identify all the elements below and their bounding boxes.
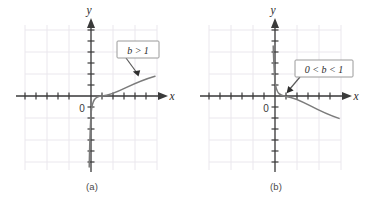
y-axis-label: y (85, 4, 92, 17)
panel-a-caption: (a) (0, 181, 184, 192)
x-axis (16, 92, 168, 100)
x-axis-label: x (168, 90, 175, 102)
panel-a: x y 0 b > 1 (a) (0, 0, 184, 205)
callout-box-a: b > 1 (117, 41, 159, 58)
panel-a-plot: x y 0 b > 1 (0, 0, 184, 182)
callout-box-b: 0 < b < 1 (295, 60, 353, 77)
x-axis (200, 92, 352, 100)
callout-label-a: b > 1 (127, 45, 149, 56)
panel-b-caption: (b) (184, 181, 368, 192)
callout-label-b: 0 < b < 1 (305, 64, 344, 75)
origin-label: 0 (79, 103, 85, 114)
callout-arrow-b (287, 77, 300, 93)
y-axis (271, 18, 279, 172)
log-curve-increasing (89, 76, 155, 167)
origin-label: 0 (263, 103, 269, 114)
log-curve-decreasing (273, 46, 339, 118)
x-axis-label: x (352, 90, 359, 102)
logarithmic-graphs-figure: x y 0 b > 1 (a) (0, 0, 368, 205)
panel-b-plot: x y 0 0 < b < 1 (184, 0, 368, 182)
y-axis-label: y (269, 4, 276, 17)
y-axis (87, 18, 95, 172)
panel-b: x y 0 0 < b < 1 (b) (184, 0, 368, 205)
